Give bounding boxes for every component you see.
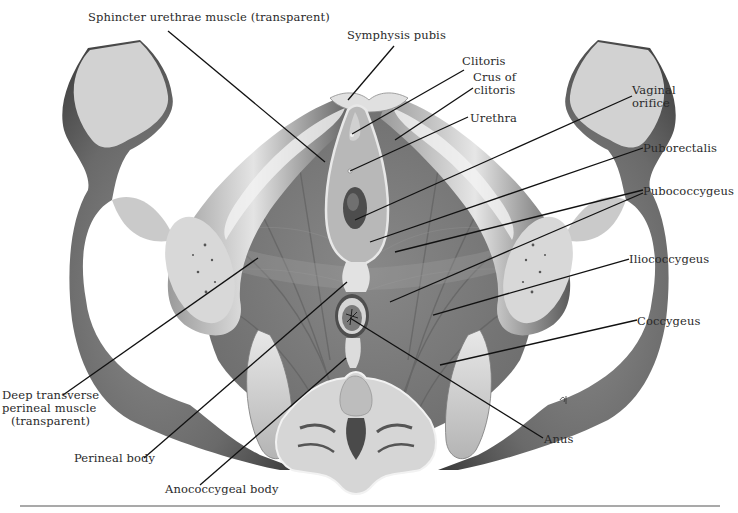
label-crus-line-2: clitoris xyxy=(473,84,516,97)
pelvic-floor-illustration xyxy=(0,0,738,513)
label-perineal-body: Perineal body xyxy=(74,452,155,465)
leader-symphysis-pubis xyxy=(348,46,394,100)
label-vaginal-line-2: orifice xyxy=(632,97,676,110)
label-deep-transverse-perineal: Deep transverse perineal muscle (transpa… xyxy=(2,389,90,428)
anus-shape xyxy=(335,294,369,338)
label-dtp-line-3: (transparent) xyxy=(2,415,90,428)
perineal-body-shape xyxy=(342,262,370,292)
label-puborectalis: Puborectalis xyxy=(643,142,717,155)
leader-sphincter-urethrae xyxy=(168,31,325,162)
label-anus: Anus xyxy=(544,433,573,446)
anatomy-figure: Sphincter urethrae muscle (transparent) … xyxy=(0,0,738,513)
label-crus-of-clitoris: Crus of clitoris xyxy=(473,71,516,97)
label-pubococcygeus: Pubococcygeus xyxy=(643,185,734,198)
label-symphysis-pubis: Symphysis pubis xyxy=(347,29,446,42)
label-anococcygeal-body: Anococcygeal body xyxy=(165,483,279,496)
label-urethra: Urethra xyxy=(470,112,517,125)
label-sphincter-urethrae: Sphincter urethrae muscle (transparent) xyxy=(88,11,330,24)
label-vaginal-orifice: Vaginal orifice xyxy=(632,84,676,110)
label-iliococcygeus: Iliococcygeus xyxy=(629,253,709,266)
label-coccygeus: Coccygeus xyxy=(637,315,700,328)
label-clitoris: Clitoris xyxy=(462,55,506,68)
